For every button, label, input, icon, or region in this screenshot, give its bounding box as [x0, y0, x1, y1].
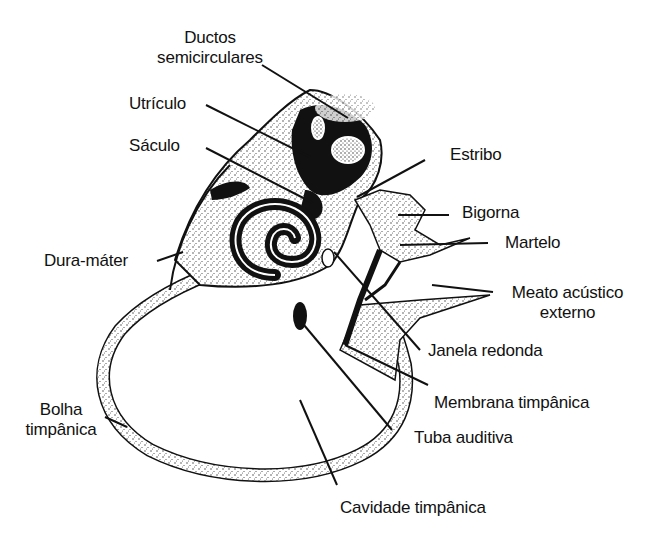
- ear-anatomy-diagram: [0, 0, 656, 549]
- label-meato-line2: externo: [500, 303, 635, 323]
- label-saculo: Sáculo: [129, 136, 180, 156]
- external-meatus: [340, 295, 490, 380]
- stipple-cloud: [315, 94, 375, 122]
- label-janela-redonda: Janela redonda: [428, 341, 542, 361]
- label-dura-mater: Dura-máter: [44, 251, 128, 271]
- label-estribo: Estribo: [450, 145, 502, 165]
- label-bigorna: Bigorna: [462, 203, 519, 223]
- label-ductos-line1: Ductos: [150, 28, 270, 48]
- label-meato-line1: Meato acústico: [500, 283, 635, 303]
- label-bolha-timpanica: Bolha timpânica: [16, 400, 106, 440]
- label-ductos-line2: semicirculares: [150, 48, 270, 68]
- label-ductos-semicirculares: Ductos semicirculares: [150, 28, 270, 68]
- label-martelo: Martelo: [505, 233, 560, 253]
- label-tuba-auditiva: Tuba auditiva: [414, 428, 513, 448]
- label-cavidade-timpanica: Cavidade timpânica: [340, 498, 486, 518]
- label-membrana-timpanica: Membrana timpânica: [434, 393, 589, 413]
- label-utriculo: Utrículo: [129, 94, 186, 114]
- label-bolha-line2: timpânica: [16, 420, 106, 440]
- label-bolha-line1: Bolha: [16, 400, 106, 420]
- label-meato-acustico-externo: Meato acústico externo: [500, 283, 635, 323]
